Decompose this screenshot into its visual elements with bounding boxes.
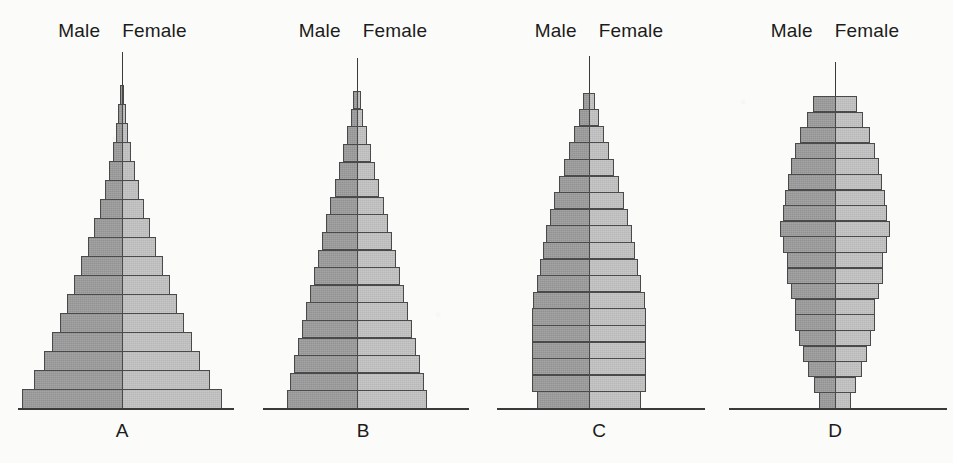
pyramid-row (532, 358, 646, 375)
bar-male (347, 126, 357, 144)
bar-male (788, 174, 835, 190)
bar-male (532, 375, 589, 392)
bar-male (105, 180, 122, 200)
bar-female (357, 232, 392, 250)
bar-female (589, 159, 614, 176)
bar-male (791, 158, 835, 174)
bar-male (339, 162, 357, 180)
bar-female (357, 91, 361, 109)
bar-male (67, 294, 122, 314)
panel-letter-b: B (343, 420, 383, 442)
bar-male (795, 143, 835, 159)
bar-male (787, 268, 835, 284)
pyramid-row (298, 338, 416, 356)
pyramid-row (814, 377, 856, 393)
pyramid-row (52, 332, 192, 352)
bar-female (589, 275, 641, 292)
pyramid-row (105, 180, 139, 200)
bar-female (835, 283, 879, 299)
bar-male (532, 308, 589, 325)
bar-female (589, 93, 595, 110)
bar-female (835, 221, 890, 237)
bar-female (357, 338, 416, 356)
legend-male-label-a: Male (58, 20, 100, 42)
pyramid-panel-b: MaleFemale B (245, 0, 481, 463)
panel-c-legend: MaleFemale (481, 20, 717, 42)
pyramid-row (532, 342, 646, 359)
pyramid-row (100, 199, 144, 219)
bar-female (589, 358, 646, 375)
pyramid-row (347, 126, 367, 144)
legend-female-label-a: Female (122, 20, 187, 42)
pyramid-row (339, 162, 375, 180)
pyramid-row (783, 205, 887, 221)
panel-a-legend: MaleFemale (0, 20, 245, 42)
pyramid-row (564, 159, 614, 176)
bar-female (122, 275, 170, 295)
bar-male (564, 159, 589, 176)
panel-letter-c: C (579, 420, 619, 442)
pyramid-row (554, 192, 624, 209)
pyramid-row (540, 259, 638, 276)
pyramid-row (310, 285, 404, 303)
pyramid-row (795, 314, 875, 330)
pyramid-row (788, 174, 882, 190)
bar-male (543, 242, 589, 259)
pyramid-row (118, 104, 126, 124)
bar-female (122, 332, 192, 352)
bar-male (290, 373, 357, 391)
bar-female (589, 209, 628, 226)
bar-female (122, 161, 135, 181)
bar-male (813, 96, 835, 112)
bar-male (335, 179, 357, 197)
bar-male (22, 389, 122, 409)
bar-male (532, 325, 589, 342)
bar-male (94, 218, 122, 238)
bar-male (532, 358, 589, 375)
bar-female (122, 294, 177, 314)
pyramid-row (353, 91, 361, 109)
bar-female (357, 126, 367, 144)
bar-female (589, 308, 646, 325)
bar-male (318, 250, 357, 268)
pyramid-row (532, 375, 646, 392)
bar-female (122, 180, 139, 200)
bar-male (795, 299, 835, 315)
pyramid-row (109, 161, 135, 181)
pyramid-row (574, 126, 604, 143)
pyramid-row (569, 142, 609, 159)
bar-female (835, 330, 871, 346)
bar-male (546, 225, 589, 242)
pyramid-panel-d: MaleFemale D (717, 0, 953, 463)
bar-female (589, 225, 632, 242)
bar-male (799, 330, 835, 346)
bar-female (835, 361, 862, 377)
bar-male (100, 199, 122, 219)
bar-female (835, 392, 851, 408)
bar-female (122, 389, 222, 409)
pyramid-row (559, 176, 619, 193)
bar-male (554, 192, 589, 209)
pyramid-row (60, 313, 184, 333)
legend-male-label-c: Male (535, 20, 577, 42)
pyramid-row (780, 221, 890, 237)
pyramid-row (808, 361, 862, 377)
bar-male (783, 205, 835, 221)
bar-female (357, 302, 408, 320)
bar-female (835, 252, 883, 268)
bar-female (835, 268, 883, 284)
bar-female (357, 179, 379, 197)
bar-male (81, 256, 122, 276)
bar-female (589, 325, 646, 342)
bar-male (343, 144, 357, 162)
bar-female (357, 390, 427, 408)
bar-male (537, 275, 589, 292)
bar-female (589, 292, 645, 309)
pyramid-row (533, 292, 645, 309)
panel-b-legend: MaleFemale (245, 20, 481, 42)
pyramid-row (791, 158, 879, 174)
bar-female (589, 391, 641, 408)
bar-male (88, 237, 122, 257)
bar-female (835, 377, 856, 393)
pyramid-row (294, 355, 420, 373)
